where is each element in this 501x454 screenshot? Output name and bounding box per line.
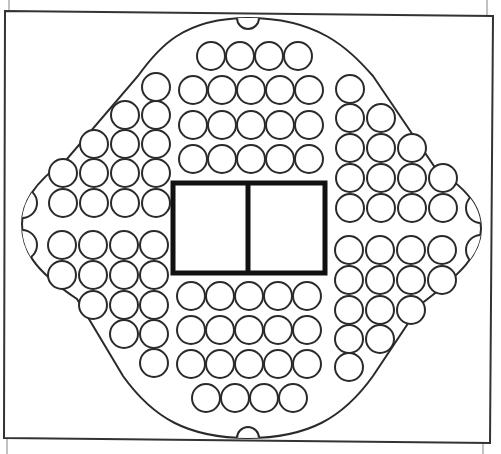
peg-hole-bottom-11[interactable] [206,350,234,378]
peg-hole-left-lower-0[interactable] [140,231,168,259]
peg-hole-right-lower-12[interactable] [428,236,456,264]
peg-hole-left-lower-9[interactable] [79,231,107,259]
peg-hole-top-6[interactable] [237,76,265,104]
peg-hole-top-2[interactable] [255,42,283,70]
peg-hole-right-upper-7[interactable] [367,164,395,192]
peg-hole-top-3[interactable] [284,42,312,70]
peg-hole-top-12[interactable] [266,111,294,139]
peg-hole-left-lower-12[interactable] [48,231,76,259]
center-home-box [173,183,325,273]
peg-hole-right-upper-5[interactable] [367,104,395,132]
peg-hole-left-upper-11[interactable] [80,189,108,217]
peg-hole-top-8[interactable] [295,76,323,104]
peg-hole-right-upper-2[interactable] [336,134,364,162]
game-board-canvas [0,0,501,454]
peg-hole-right-upper-0[interactable] [336,75,364,103]
peg-hole-bottom-1[interactable] [206,282,234,310]
peg-hole-bottom-7[interactable] [235,316,263,344]
peg-hole-bottom-9[interactable] [293,316,321,344]
peg-hole-right-lower-2[interactable] [335,296,363,324]
peg-hole-left-upper-5[interactable] [111,101,139,129]
peg-hole-right-lower-5[interactable] [366,236,394,264]
peg-hole-bottom-3[interactable] [264,282,292,310]
peg-hole-bottom-17[interactable] [250,384,278,412]
peg-hole-top-1[interactable] [226,42,254,70]
peg-hole-bottom-10[interactable] [177,350,205,378]
peg-hole-top-17[interactable] [266,145,294,173]
peg-hole-right-lower-7[interactable] [366,296,394,324]
peg-hole-right-lower-9[interactable] [397,236,425,264]
peg-hole-left-upper-1[interactable] [142,101,170,129]
peg-hole-right-lower-13[interactable] [428,266,456,294]
peg-hole-left-upper-9[interactable] [80,130,108,158]
peg-hole-right-upper-8[interactable] [367,194,395,222]
peg-hole-bottom-8[interactable] [264,316,292,344]
peg-hole-top-4[interactable] [179,76,207,104]
peg-hole-left-upper-10[interactable] [80,159,108,187]
peg-hole-left-lower-5[interactable] [110,231,138,259]
peg-hole-right-upper-4[interactable] [336,194,364,222]
peg-hole-right-upper-11[interactable] [398,194,426,222]
peg-hole-bottom-16[interactable] [221,384,249,412]
peg-hole-top-15[interactable] [208,145,236,173]
peg-hole-bottom-14[interactable] [293,350,321,378]
peg-hole-bottom-0[interactable] [177,282,205,310]
peg-hole-bottom-18[interactable] [279,384,307,412]
peg-hole-left-lower-10[interactable] [79,261,107,289]
peg-hole-bottom-15[interactable] [192,384,220,412]
half-hole-left-upper[interactable] [7,188,37,218]
peg-hole-left-lower-8[interactable] [110,320,138,348]
peg-hole-right-upper-3[interactable] [336,164,364,192]
peg-hole-top-10[interactable] [208,111,236,139]
peg-hole-left-upper-2[interactable] [142,130,170,158]
peg-hole-bottom-13[interactable] [264,350,292,378]
peg-hole-right-lower-3[interactable] [335,325,363,353]
peg-hole-top-11[interactable] [237,111,265,139]
peg-hole-left-upper-7[interactable] [111,159,139,187]
peg-hole-left-upper-13[interactable] [49,189,77,217]
peg-hole-top-14[interactable] [179,145,207,173]
peg-hole-top-5[interactable] [208,76,236,104]
peg-hole-left-lower-4[interactable] [140,349,168,377]
peg-hole-left-lower-1[interactable] [140,261,168,289]
peg-hole-left-upper-0[interactable] [142,73,170,101]
peg-hole-right-upper-6[interactable] [367,134,395,162]
peg-hole-top-16[interactable] [237,145,265,173]
peg-hole-right-upper-9[interactable] [398,134,426,162]
peg-hole-bottom-6[interactable] [206,316,234,344]
peg-hole-top-18[interactable] [295,145,323,173]
peg-hole-left-upper-6[interactable] [111,130,139,158]
peg-hole-right-lower-0[interactable] [335,236,363,264]
peg-hole-bottom-4[interactable] [293,282,321,310]
peg-hole-left-lower-11[interactable] [79,291,107,319]
peg-hole-left-upper-4[interactable] [142,189,170,217]
peg-hole-right-upper-10[interactable] [398,164,426,192]
peg-hole-top-0[interactable] [197,42,225,70]
peg-hole-left-upper-12[interactable] [49,159,77,187]
peg-hole-right-lower-10[interactable] [397,266,425,294]
peg-hole-left-lower-6[interactable] [110,261,138,289]
peg-hole-left-lower-3[interactable] [140,320,168,348]
peg-hole-right-lower-11[interactable] [397,296,425,324]
peg-hole-right-lower-4[interactable] [335,353,363,381]
peg-hole-right-lower-8[interactable] [366,325,394,353]
peg-hole-bottom-12[interactable] [235,350,263,378]
peg-hole-top-9[interactable] [179,111,207,139]
peg-hole-bottom-2[interactable] [235,282,263,310]
peg-hole-left-lower-13[interactable] [48,261,76,289]
peg-hole-right-upper-1[interactable] [336,104,364,132]
peg-hole-top-13[interactable] [295,111,323,139]
peg-hole-right-lower-6[interactable] [366,266,394,294]
peg-hole-left-upper-8[interactable] [111,189,139,217]
peg-hole-left-lower-7[interactable] [110,291,138,319]
peg-hole-right-upper-12[interactable] [429,164,457,192]
peg-hole-right-upper-13[interactable] [429,194,457,222]
peg-hole-top-7[interactable] [266,76,294,104]
peg-hole-left-lower-2[interactable] [140,291,168,319]
peg-hole-left-upper-3[interactable] [142,159,170,187]
peg-hole-bottom-5[interactable] [177,316,205,344]
peg-hole-right-lower-1[interactable] [335,266,363,294]
